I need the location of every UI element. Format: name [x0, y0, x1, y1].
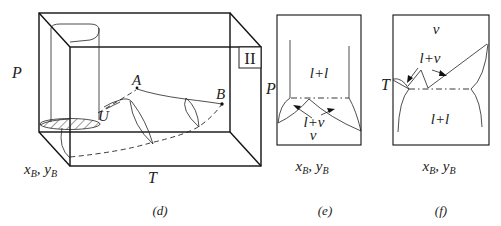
- hatched-cross-section: [40, 119, 100, 130]
- panel-d-3d-diagram: II U A B P: [11, 13, 261, 218]
- critical-line-a-b: [137, 89, 222, 104]
- point-u-label: U: [98, 108, 110, 124]
- region-ll-label: l+l: [431, 111, 449, 127]
- region-ll-label: l+l: [310, 65, 328, 81]
- caption-d: (d): [152, 203, 167, 218]
- axis-x-label: xB, yB: [421, 158, 455, 176]
- caption-f: (f): [435, 203, 447, 218]
- region-lv-label: l+v: [420, 50, 441, 66]
- panel-e-px-diagram: l+l l+v v P xB, yB (e): [265, 15, 361, 218]
- axis-t-label: T: [381, 76, 391, 93]
- region-v-label: v: [433, 21, 440, 37]
- axis-p-label: P: [11, 64, 22, 81]
- axis-p-label: P: [265, 80, 276, 97]
- caption-e: (e): [318, 203, 332, 218]
- region-ii-label: II: [244, 49, 256, 68]
- region-v-label: v: [310, 127, 317, 143]
- point-a-label: A: [131, 72, 142, 88]
- phase-diagram-figure: II U A B P: [0, 0, 501, 226]
- point-b-label: B: [216, 86, 225, 102]
- dashed-critical-line: [70, 104, 222, 157]
- axis-x-label: xB, yB: [23, 161, 57, 179]
- axis-x-label: xB, yB: [294, 158, 328, 176]
- axis-t-label: T: [148, 169, 158, 186]
- panel-f-tx-diagram: v l+v l+l T xB, yB (f): [381, 15, 489, 218]
